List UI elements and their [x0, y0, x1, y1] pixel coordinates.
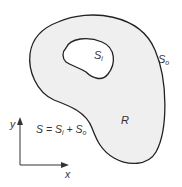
label-inner-boundary: Si [94, 49, 103, 62]
region-R-shape [30, 15, 165, 163]
label-x-axis: x [64, 168, 71, 180]
label-region: R [121, 114, 129, 126]
label-outer-boundary: So [158, 53, 169, 66]
region-diagram: Si So R S = Si + So y x [0, 0, 182, 187]
y-axis-arrowhead [17, 117, 23, 125]
label-equation: S = Si + So [36, 123, 87, 136]
label-y-axis: y [9, 118, 16, 130]
